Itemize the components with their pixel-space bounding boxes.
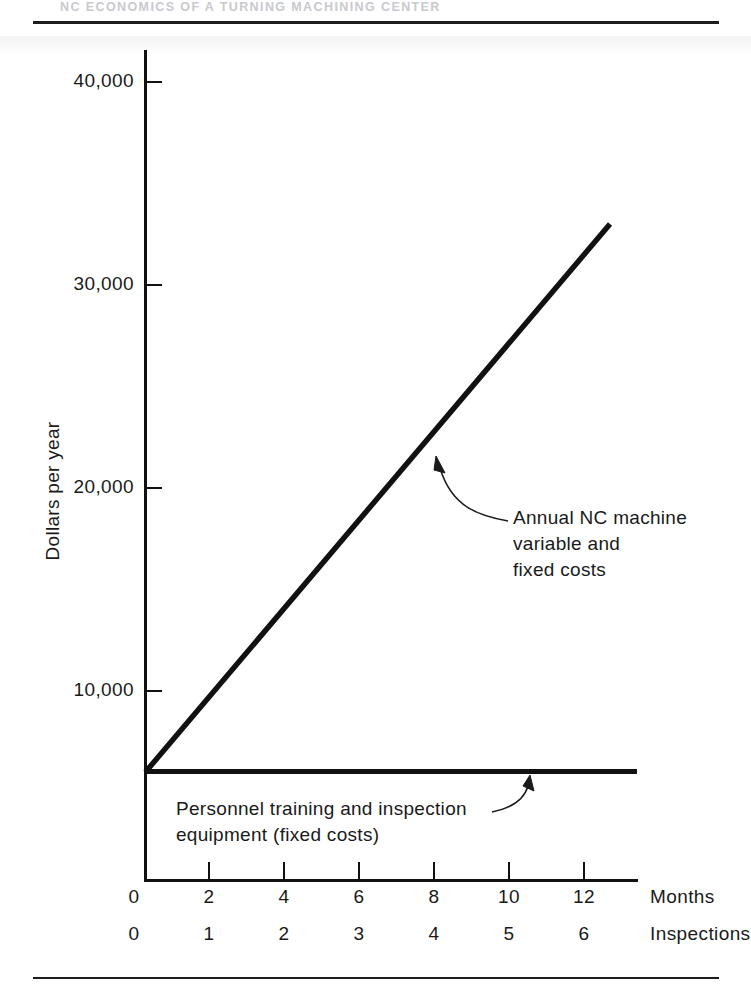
- x-label-inspections-0: 0: [104, 923, 164, 945]
- y-axis-line: [144, 50, 147, 882]
- chart-plot-area: Dollars per year 10,000 20,000 30,000 40…: [0, 0, 751, 1000]
- y-tick-10000: [147, 690, 162, 692]
- scanned-page: NC ECONOMICS OF A TURNING MACHINING CENT…: [0, 0, 751, 1000]
- y-tick-20000: [147, 487, 162, 489]
- y-tick-label-20000: 20,000: [73, 476, 134, 498]
- x-label-months-0: 0: [104, 886, 164, 908]
- arrowhead-nc-annotation: [434, 456, 445, 473]
- y-tick-label-10000: 10,000: [73, 679, 134, 701]
- y-tick-label-40000: 40,000: [73, 70, 134, 92]
- leader-line-nc-annotation: [440, 468, 508, 521]
- x-label-months-8: 8: [404, 886, 464, 908]
- x-label-inspections-1: 1: [179, 923, 239, 945]
- x-tick-10: [508, 862, 510, 880]
- x-label-inspections-2: 2: [254, 923, 314, 945]
- x-label-inspections-5: 5: [479, 923, 539, 945]
- x-axis-name-inspections: Inspections: [650, 923, 751, 945]
- x-label-months-12: 12: [554, 886, 614, 908]
- chart-series-layer: [0, 0, 751, 1000]
- x-label-months-6: 6: [329, 886, 389, 908]
- x-label-inspections-6: 6: [554, 923, 614, 945]
- x-tick-12: [583, 862, 585, 880]
- x-tick-4: [283, 862, 285, 880]
- leader-line-personnel-annotation: [492, 786, 528, 812]
- x-label-months-4: 4: [254, 886, 314, 908]
- y-tick-label-30000: 30,000: [73, 273, 134, 295]
- x-label-months-2: 2: [179, 886, 239, 908]
- x-label-months-10: 10: [479, 886, 539, 908]
- series-line-nc-machine-costs: [146, 224, 611, 772]
- x-tick-6: [358, 862, 360, 880]
- y-tick-30000: [147, 284, 162, 286]
- x-tick-2: [208, 862, 210, 880]
- y-tick-40000: [147, 81, 162, 83]
- y-axis-title: Dollars per year: [42, 391, 64, 591]
- x-tick-8: [433, 862, 435, 880]
- annotation-personnel-fixed-costs: Personnel training and inspection equipm…: [176, 796, 467, 848]
- x-label-inspections-4: 4: [404, 923, 464, 945]
- x-label-inspections-3: 3: [329, 923, 389, 945]
- x-axis-name-months: Months: [650, 886, 715, 908]
- bottom-rule: [33, 977, 719, 979]
- x-axis-line: [144, 879, 638, 882]
- annotation-nc-machine-costs: Annual NC machine variable and fixed cos…: [513, 505, 687, 583]
- arrowhead-personnel-annotation: [523, 775, 534, 791]
